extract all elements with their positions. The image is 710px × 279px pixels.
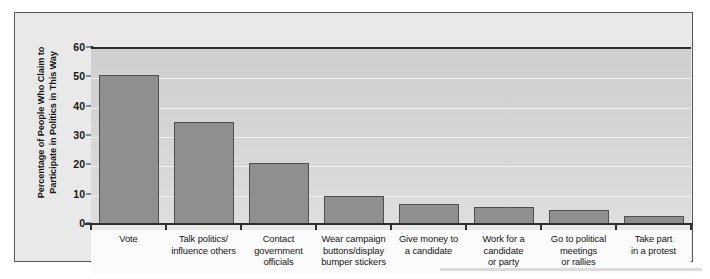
bar-slot [166, 49, 241, 225]
bar-slot [466, 49, 541, 225]
x-axis-category-label-line: officials [241, 256, 316, 268]
bar [174, 122, 234, 225]
x-axis-category-label-line: candidate [466, 245, 541, 257]
x-axis-category-label-line: Contact [241, 233, 316, 245]
x-axis-category-label-line: Work for a [466, 233, 541, 245]
x-axis-category-label-line: a candidate [391, 245, 466, 257]
bar-slot [616, 49, 691, 225]
x-axis-category-label-line: influence others [166, 245, 241, 257]
x-axis-category-label-line: or party [466, 256, 541, 268]
y-axis-tick-label: 20 [73, 158, 85, 170]
bar-series [91, 49, 691, 225]
x-axis-category-label-line: Give money to [391, 233, 466, 245]
x-axis-category-label-line: meetings [541, 245, 616, 257]
x-axis-category-label: Wear campaignbuttons/displaybumper stick… [316, 230, 391, 274]
y-axis-tick-label: 60 [73, 41, 85, 53]
y-axis-tick-labels: 0102030405060 [55, 31, 91, 223]
y-axis-tick-label: 30 [73, 129, 85, 141]
y-axis-tick-label: 40 [73, 100, 85, 112]
plot-area [91, 47, 691, 225]
bar-slot [241, 49, 316, 225]
bar-slot [541, 49, 616, 225]
x-axis-category-label-line: Vote [91, 233, 166, 245]
x-axis-category-label: Vote [91, 230, 166, 274]
x-axis-category-label-line: Take part [616, 233, 691, 245]
x-axis-category-label: Talk politics/influence others [166, 230, 241, 274]
y-axis-tick-label: 50 [73, 70, 85, 82]
x-axis-category-label-line: in a protest [616, 245, 691, 257]
x-axis-category-label-line: buttons/display [316, 245, 391, 257]
bar-slot [316, 49, 391, 225]
x-axis-category-label-line: Go to political [541, 233, 616, 245]
x-axis-category-label-line: government [241, 245, 316, 257]
x-axis-category-label-line: or rallies [541, 256, 616, 268]
bar-slot [91, 49, 166, 225]
figure-frame: Percentage of People Who Claim to Partic… [14, 12, 693, 262]
bar [99, 75, 159, 225]
x-axis-category-label-line: bumper stickers [316, 256, 391, 268]
bar-slot [391, 49, 466, 225]
page-print-band [440, 268, 702, 271]
y-axis-tick-label: 10 [73, 188, 85, 200]
bar [249, 163, 309, 225]
x-axis-category-label-line: Wear campaign [316, 233, 391, 245]
bar [324, 196, 384, 225]
x-axis-category-label-line: Talk politics/ [166, 233, 241, 245]
bar [399, 204, 459, 225]
x-axis-category-label: Contactgovernmentofficials [241, 230, 316, 274]
